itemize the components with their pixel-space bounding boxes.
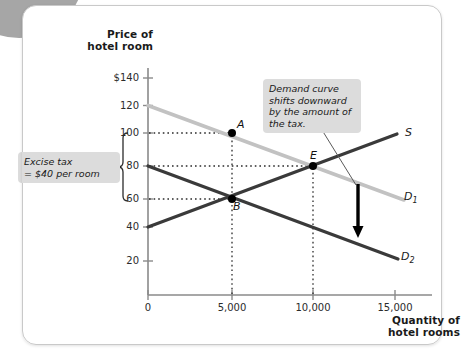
x-tick-label-0: 0 — [128, 302, 168, 313]
curve-label-supply: S — [405, 126, 412, 139]
curve-label-demand1: D1 — [404, 190, 418, 205]
y-tick-label-100: 100 — [94, 127, 139, 138]
y-tick-label-120: 120 — [94, 100, 139, 111]
y-tick-label-20: 20 — [94, 255, 139, 266]
figure-root: A B E S D1 D2 Price of hotel room Quanti… — [0, 0, 467, 352]
data-point-a — [228, 129, 236, 137]
x-tick-label-10000: 10,000 — [286, 302, 340, 313]
data-point-e — [309, 162, 317, 170]
y-tick-label-60: 60 — [94, 193, 139, 204]
x-axis-title-line1: Quantity of — [370, 314, 460, 326]
y-axis-title-line1: Price of — [87, 28, 153, 40]
y-tick-label-140: $140 — [94, 72, 139, 83]
data-point-label-e: E — [310, 149, 317, 162]
curve-label-demand1-sub: 1 — [412, 196, 417, 205]
annotation-excise-tax-line1: Excise tax — [24, 156, 114, 168]
annotation-excise-tax-line2: = $40 per room — [24, 168, 114, 180]
x-axis-title: Quantity of hotel rooms — [370, 314, 460, 338]
y-axis-title: Price of hotel room — [87, 28, 153, 52]
x-axis-title-line2: hotel rooms — [370, 326, 460, 338]
y-tick-label-40: 40 — [94, 221, 139, 232]
annotation-excise-tax: Excise tax = $40 per room — [18, 152, 120, 183]
x-tick-label-5000: 5,000 — [207, 302, 257, 313]
data-point-label-a: A — [237, 118, 245, 131]
x-tick-label-15000: 15,000 — [368, 302, 422, 313]
shift-down-arrow — [353, 184, 364, 238]
data-point-label-b: B — [233, 200, 241, 213]
y-axis-title-line2: hotel room — [87, 40, 153, 52]
annotation-demand-shift: Demand curve shifts downward by the amou… — [263, 79, 361, 133]
curve-label-demand2-sub: 2 — [409, 256, 414, 265]
curve-label-demand2: D2 — [401, 250, 415, 265]
